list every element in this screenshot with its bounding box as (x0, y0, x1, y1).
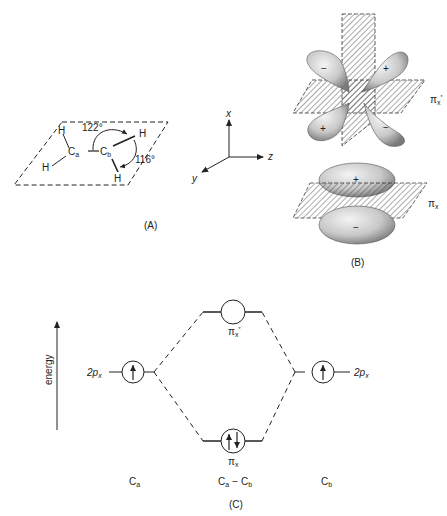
antibonding-orbital-pi-star: − + + − πx* (293, 14, 442, 146)
panel-b-orbitals: − + + − πx* + − πx (B) (293, 14, 442, 268)
sign-plus: + (320, 123, 326, 134)
nodal-plane-horizontal (293, 80, 425, 113)
correlation-lines (154, 312, 295, 441)
label-ca: Ca (129, 476, 140, 488)
atom-ca: Ca (68, 146, 79, 158)
panel-c-caption: (C) (229, 499, 243, 510)
coordinate-axes: x z y (191, 108, 273, 184)
label-ca-cb: Ca−Cb (218, 476, 252, 488)
atom-h: H (139, 128, 146, 139)
panel-a-ethylene-plane: H H Ca Cb H H 122° 116° (A) (14, 122, 168, 231)
bond-cb-h-top (113, 136, 135, 146)
y-axis-arrow (202, 157, 229, 172)
energy-axis-label: energy (43, 354, 54, 385)
panel-c-energy-diagram: energy 2px 2px πx* πx Ca (43, 300, 369, 510)
sign-minus: − (383, 122, 389, 133)
x-axis-label: x (225, 108, 232, 119)
bond-cb-h-bottom (112, 159, 118, 172)
pi-star-level-label: πx* (228, 326, 240, 338)
z-axis-label: z (267, 151, 273, 162)
panel-a-caption: (A) (144, 220, 157, 231)
label-cb: Cb (321, 476, 332, 488)
atom-h: H (42, 162, 49, 173)
pi-label: πx (428, 198, 439, 210)
molecular-orbital-diagram: H H Ca Cb H H 122° 116° (A) x z y − + + … (0, 0, 447, 516)
sign-plus: + (383, 63, 389, 74)
angle-arc-116 (120, 140, 136, 167)
sign-plus: + (353, 174, 359, 185)
atom-h: H (114, 173, 121, 184)
bonding-orbital-pi: + − πx (293, 163, 439, 244)
angle-label-122: 122° (82, 122, 103, 133)
atom-h: H (58, 125, 65, 136)
panel-b-caption: (B) (351, 257, 364, 268)
orbital-pi-star (221, 300, 245, 324)
sign-minus: − (321, 63, 327, 74)
orbital-pi (221, 429, 245, 453)
pi-level-label: πx (228, 456, 239, 468)
angle-label-116: 116° (135, 154, 155, 165)
bond-h-ca-bottom (52, 156, 66, 166)
atom-cb: Cb (100, 146, 111, 158)
y-axis-label: y (191, 173, 198, 184)
right-2px-label: 2px (353, 367, 369, 379)
left-2px-label: 2px (86, 367, 102, 379)
pi-star-label: πx* (430, 94, 442, 106)
sign-minus: − (353, 222, 359, 233)
